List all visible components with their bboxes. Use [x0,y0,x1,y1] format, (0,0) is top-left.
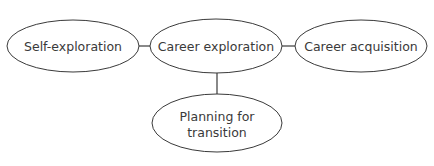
node-career-exploration: Career exploration [150,19,282,73]
node-label: Career acquisition [304,39,418,54]
career-process-diagram: Self-exploration Career exploration Care… [0,0,434,166]
node-label-line-1: Planning for [179,109,255,124]
node-planning-for-transition: Planning for transition [152,94,282,152]
node-label: Career exploration [158,39,274,54]
node-label-line-2: transition [187,125,247,140]
node-self-exploration: Self-exploration [7,20,139,72]
node-label: Self-exploration [24,39,122,54]
node-career-acquisition: Career acquisition [295,20,427,72]
